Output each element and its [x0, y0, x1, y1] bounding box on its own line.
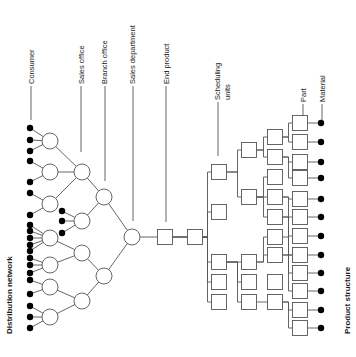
title-distribution-network: Distribution network [5, 256, 14, 334]
consumer-dot [27, 125, 33, 131]
material-dot [318, 325, 324, 331]
level-label: Material [318, 75, 327, 102]
network-node-bo2 [96, 268, 112, 284]
level-label: Sales department [128, 24, 137, 84]
network-node-c1 [42, 133, 58, 149]
product-node-d3 [268, 170, 283, 185]
product-node-p2 [293, 135, 308, 150]
material-dot [318, 120, 324, 126]
tree-edge [203, 237, 212, 262]
distribution-product-diagram: ConsumerSales officeBranch officeSales d… [0, 0, 356, 357]
network-node-c3 [42, 196, 58, 212]
consumer-dot [27, 179, 33, 185]
level-label: Sales office [77, 45, 86, 84]
product-node-b1 [242, 143, 257, 158]
product-node-p1 [293, 116, 308, 131]
network-node-c7 [42, 309, 58, 325]
product-node-d4 [268, 190, 283, 205]
product-node-p10 [293, 284, 308, 299]
tree-edge [173, 237, 212, 302]
product-node-p3 [293, 155, 308, 170]
level-label: End product [162, 43, 171, 84]
network-node-so2 [74, 213, 90, 229]
level-label: Branch office [100, 40, 109, 84]
consumer-dot [27, 248, 33, 254]
consumer-dot [27, 242, 33, 248]
tree-edge [283, 302, 293, 328]
tree-edge [227, 172, 242, 197]
material-dot [318, 233, 324, 239]
consumer-dot [27, 190, 33, 196]
product-node-p5 [293, 192, 308, 207]
product-node-p11 [293, 303, 308, 318]
material-dot [318, 196, 324, 202]
tree-edge [283, 255, 293, 273]
material-dot [318, 288, 324, 294]
material-dot [318, 139, 324, 145]
tree-edge [283, 217, 293, 236]
tree-edge [283, 237, 293, 255]
network-node-so4 [74, 293, 90, 309]
material-dot [318, 214, 324, 220]
consumer-dot [27, 255, 33, 261]
product-node-p7 [293, 229, 308, 244]
consumer-dot [27, 228, 33, 234]
product-node-d7 [268, 248, 283, 263]
tree-edge [283, 157, 293, 162]
product-node-a2 [212, 205, 227, 220]
consumer-dot [27, 270, 33, 276]
tree-edge [257, 197, 268, 217]
product-node-p9 [293, 266, 308, 281]
product-node-d2 [268, 150, 283, 165]
material-dot [318, 307, 324, 313]
network-node-sd [124, 229, 140, 245]
nodes-layer [27, 116, 324, 336]
consumer-dot [59, 230, 65, 236]
tree-edge [283, 302, 293, 310]
product-node-d1 [268, 130, 283, 145]
network-node-c4 [42, 230, 58, 246]
tree-edge [283, 157, 293, 178]
tree-edge [257, 150, 268, 157]
consumer-dot [27, 222, 33, 228]
level-label: Scheduling [213, 63, 222, 100]
tree-edge [227, 262, 242, 282]
material-dot [318, 270, 324, 276]
consumer-dot [27, 148, 33, 154]
network-node-so1 [74, 164, 90, 180]
consumer-dot [27, 158, 33, 164]
product-node-b5 [242, 295, 257, 310]
material-dot [318, 252, 324, 258]
consumer-dot [27, 137, 33, 143]
tree-edge [257, 177, 268, 197]
product-node-a1 [212, 165, 227, 180]
network-node-c5 [42, 257, 58, 273]
consumer-dot [59, 208, 65, 214]
product-node-d5 [268, 210, 283, 225]
consumer-dot [27, 314, 33, 320]
network-node-c2 [42, 164, 58, 180]
network-node-c6 [42, 279, 58, 295]
product-node-b4 [242, 275, 257, 290]
level-label: Part [299, 87, 308, 102]
tree-edge [257, 255, 268, 262]
product-node-a4 [212, 275, 227, 290]
tree-edge [283, 137, 293, 142]
product-node-b3 [242, 255, 257, 270]
product-node-d9 [268, 295, 283, 310]
product-node-ep [158, 230, 173, 245]
network-node-so3 [74, 245, 90, 261]
consumer-dot [27, 235, 33, 241]
material-dot [318, 175, 324, 181]
product-node-p4 [293, 171, 308, 186]
product-node-p8 [293, 248, 308, 263]
level-label: units [223, 84, 232, 100]
product-node-a5 [212, 295, 227, 310]
tree-edge [257, 137, 268, 150]
consumer-dot [27, 277, 33, 283]
network-node-bo1 [96, 189, 112, 205]
material-dot [318, 159, 324, 165]
title-product-structure: Product structure [343, 266, 352, 334]
product-node-p12 [293, 321, 308, 336]
consumer-dot [27, 303, 33, 309]
